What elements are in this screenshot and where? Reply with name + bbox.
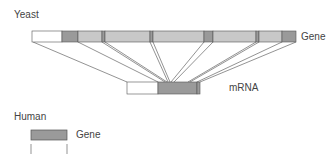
segment-intron [78, 31, 102, 42]
yeast-gene-bar [32, 31, 296, 42]
segment-utr [32, 31, 62, 42]
segment-intron [213, 31, 256, 42]
splice-connectors [33, 42, 296, 82]
segment-exon [150, 31, 153, 42]
segment-utr [127, 82, 158, 94]
segment-exon [204, 31, 213, 42]
mrna-bar [127, 82, 200, 94]
segment-intron [259, 31, 282, 42]
segment-exon [282, 31, 296, 42]
segment-intron [105, 31, 150, 42]
segment-exon [197, 82, 200, 94]
segment-exon [102, 31, 105, 42]
segment-exon [62, 31, 78, 42]
human-gene-exon [31, 130, 67, 140]
gene-diagram [0, 0, 335, 154]
segment-intron [153, 31, 204, 42]
segment-exon [158, 82, 197, 94]
segment-exon [256, 31, 259, 42]
